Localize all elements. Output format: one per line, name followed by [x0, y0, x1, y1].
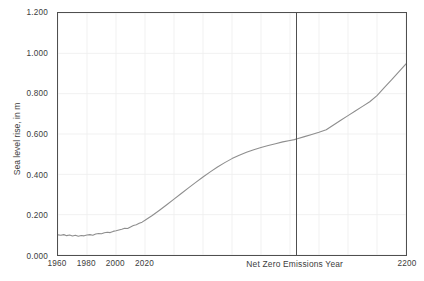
y-tick-label: 0.200 — [27, 211, 49, 220]
x-axis-title: Net Zero Emissions Year — [246, 259, 343, 269]
x-axis-tick-labels: 19601980200020202200Net Zero Emissions Y… — [0, 259, 424, 275]
y-tick-label: 1.200 — [27, 8, 49, 17]
y-axis-tick-labels: 1.2001.0000.8000.6000.4000.2000.000 — [0, 0, 52, 281]
plot-area — [57, 12, 407, 256]
x-tick-label: 2200 — [397, 259, 416, 268]
x-tick-label: 1960 — [47, 259, 66, 268]
y-tick-label: 1.000 — [27, 48, 49, 57]
net-zero-emissions-year-line — [296, 12, 297, 256]
sea-level-rise-chart: Sea level rise, in m 1.2001.0000.8000.60… — [0, 0, 424, 281]
y-tick-label: 0.600 — [27, 130, 49, 139]
y-tick-label: 0.800 — [27, 89, 49, 98]
series-sea-level-rise — [58, 13, 406, 255]
x-tick-label: 2020 — [135, 259, 154, 268]
y-tick-label: 0.400 — [27, 170, 49, 179]
x-tick-label: 1980 — [77, 259, 96, 268]
x-tick-label: 2000 — [106, 259, 125, 268]
